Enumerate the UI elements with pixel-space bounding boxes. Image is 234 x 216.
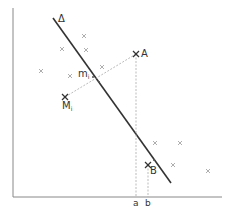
scatter-cross-icon — [68, 74, 72, 78]
projection-line-a-mi — [65, 54, 136, 97]
scatter-cross-icon — [84, 48, 88, 52]
point-mi-label: Mi — [62, 101, 72, 112]
scatter-cross-icon — [178, 141, 182, 145]
scatter-cross-icon — [153, 141, 157, 145]
scatter-cross-icon — [206, 169, 210, 173]
tick-label-b: b — [145, 199, 151, 208]
mi-label-main: M — [62, 100, 71, 111]
diagram-canvas — [0, 0, 234, 216]
point-b-label: B — [150, 166, 157, 176]
scatter-cross-icon — [39, 69, 43, 73]
intersection-point — [98, 81, 100, 83]
scatter-cross-icon — [60, 47, 64, 51]
point-a-label: A — [141, 49, 148, 59]
delta-label: Δ — [58, 14, 65, 24]
point-a-cross-icon — [133, 51, 139, 57]
scatter-cross-icon — [82, 34, 86, 38]
mi-label-subscript: i — [71, 105, 73, 112]
mi-foot-point — [92, 76, 94, 78]
scatter-cross-icon — [100, 65, 104, 69]
scatter-cross-icon — [171, 163, 175, 167]
small-mi-label-subscript: i — [88, 73, 90, 80]
b-foot-point — [153, 159, 155, 161]
tick-label-a: a — [133, 199, 139, 208]
small-mi-label-main: m — [78, 68, 88, 79]
point-small-mi-label: mi — [78, 69, 89, 80]
